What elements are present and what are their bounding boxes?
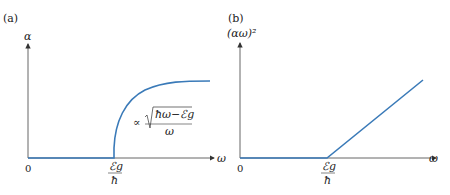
annotation-numerator: ħω−ℰg: [155, 108, 194, 121]
panel-a-threshold-denominator: ħ: [111, 174, 118, 187]
panel-b-x-label: ω: [429, 152, 438, 165]
panel-b-threshold-denominator: ħ: [324, 174, 331, 187]
proportional-symbol: ∝: [133, 116, 140, 129]
panel-a-x-label: ω: [217, 152, 226, 165]
panel-b: (b) (αω)² ω 0 ℰg ħ: [227, 12, 438, 187]
panel-b-origin-label: 0: [237, 163, 243, 174]
figure: (a) α ω 0 ℰg ħ ∝ ħω−ℰg ω (b) (αω)² ω 0 ℰ…: [0, 0, 450, 195]
panel-b-threshold-numerator: ℰg: [322, 160, 336, 173]
panel-b-label: (b): [228, 12, 244, 25]
panel-a-label: (a): [3, 12, 18, 25]
panel-a-annotation: ∝ ħω−ℰg ω: [133, 107, 194, 138]
annotation-denominator: ω: [165, 125, 174, 138]
panel-a-threshold-numerator: ℰg: [109, 160, 123, 173]
panel-b-y-label: (αω)²: [227, 27, 256, 40]
panel-a-y-label: α: [24, 30, 32, 43]
panel-a: (a) α ω 0 ℰg ħ ∝ ħω−ℰg ω: [3, 12, 226, 187]
panel-b-curve: [240, 80, 423, 158]
panel-a-origin-label: 0: [25, 163, 31, 174]
